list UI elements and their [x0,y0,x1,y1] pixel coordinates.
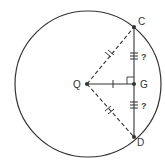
label-d: D [137,137,144,148]
tick-marks-qc [105,50,114,57]
annotation-cg-unknown: ? [141,52,147,62]
label-g: G [140,79,148,90]
point-d [132,135,136,139]
label-c: C [138,16,145,27]
annotation-gd-unknown: ? [141,101,147,111]
label-q: Q [73,79,81,90]
segment-qc [87,27,134,84]
point-g [132,82,136,86]
circle-diagram: Q C G D ? ? [0,0,165,167]
point-q [85,82,89,86]
segment-qd [87,84,134,137]
point-c [132,25,136,29]
